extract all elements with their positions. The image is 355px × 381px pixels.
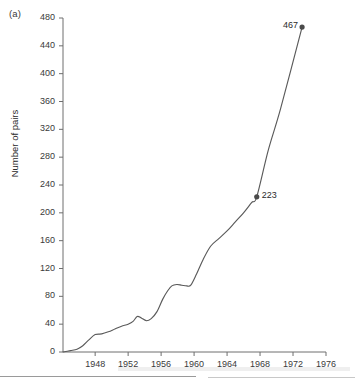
data-point-label-467: 467 <box>275 20 298 30</box>
y-tick-label-320: 320 <box>14 123 55 133</box>
y-tick-label-80: 80 <box>14 290 55 300</box>
y-tick-label-360: 360 <box>14 96 55 106</box>
page-rule-right <box>208 377 355 378</box>
page-artifact-smudge <box>118 367 350 371</box>
y-tick-label-440: 440 <box>14 40 55 50</box>
y-tick-label-200: 200 <box>14 207 55 217</box>
y-tick-label-120: 120 <box>14 263 55 273</box>
y-tick-label-0: 0 <box>14 346 55 356</box>
data-point-marker-223 <box>254 194 259 199</box>
chart-figure: (a) Number of pairs 04080120160200240280… <box>0 0 355 381</box>
y-tick-label-240: 240 <box>14 179 55 189</box>
y-tick-label-40: 40 <box>14 318 55 328</box>
y-tick-label-160: 160 <box>14 235 55 245</box>
y-tick-label-400: 400 <box>14 68 55 78</box>
x-axis-ticks <box>95 352 326 356</box>
y-axis-ticks <box>59 18 63 352</box>
y-tick-label-480: 480 <box>14 12 55 22</box>
y-tick-label-280: 280 <box>14 151 55 161</box>
data-point-label-223: 223 <box>262 190 277 200</box>
axes <box>59 18 326 356</box>
page-rule-left <box>0 376 196 377</box>
data-point-marker-467 <box>299 24 304 29</box>
